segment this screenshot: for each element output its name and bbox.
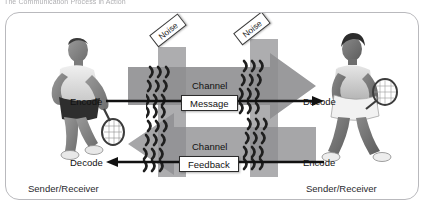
channel-label-feedback: Channel xyxy=(192,141,227,152)
channel-label-message: Channel xyxy=(192,80,227,91)
role-label-left: Sender/Receiver xyxy=(28,183,99,194)
message-box: Message xyxy=(181,95,238,111)
role-label-right: Sender/Receiver xyxy=(306,183,377,194)
encode-label-right: Encode xyxy=(303,157,335,168)
decode-label-left: Decode xyxy=(70,157,103,168)
noise-tick-cluster-right-upper xyxy=(238,57,292,117)
feedback-box: Feedback xyxy=(179,156,239,172)
decode-label-right: Decode xyxy=(303,96,336,107)
noise-tag-left: Noise xyxy=(149,14,186,48)
communication-process-diagram: Channel Channel Message Feedback Noise N… xyxy=(5,12,419,200)
page-title: The Communication Process in Action xyxy=(4,0,126,5)
encode-label-left: Encode xyxy=(70,96,102,107)
